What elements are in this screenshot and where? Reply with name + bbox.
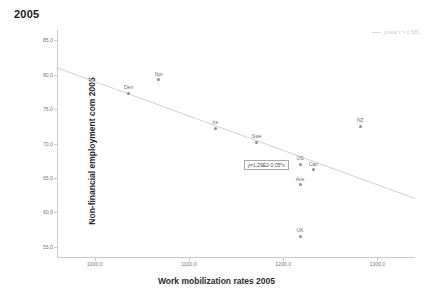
y-tick-label: 85,0 (43, 37, 53, 43)
x-tick-label: 1300,0 (369, 261, 385, 267)
data-point[interactable] (255, 141, 258, 144)
data-point[interactable] (299, 235, 302, 238)
y-tick-label: 55,0 (43, 244, 53, 250)
regression-line (57, 30, 415, 257)
y-tick-label: 65,0 (43, 175, 53, 181)
data-point[interactable] (214, 127, 217, 130)
x-tick-mark (95, 258, 96, 261)
data-point-label: Den (124, 84, 133, 90)
x-tick-mark (283, 258, 284, 261)
x-tick-mark (377, 258, 378, 261)
page-title: 2005 (14, 8, 39, 20)
data-point-label: Swe (252, 133, 262, 139)
x-axis-line (57, 257, 415, 258)
data-point-label: Ire (212, 119, 218, 125)
data-point[interactable] (312, 168, 315, 171)
data-point-label: NZ (357, 117, 364, 123)
data-point-label: Nor (155, 71, 163, 77)
regression-equation-label: y=1,29E2-0,05*x (244, 160, 289, 170)
data-point-label: Aus (296, 176, 305, 182)
data-point[interactable] (299, 183, 302, 186)
data-point-label: UK (297, 227, 304, 233)
y-tick-label: 80,0 (43, 72, 53, 78)
data-point[interactable] (359, 125, 362, 128)
y-tick-label: 75,0 (43, 106, 53, 112)
data-point[interactable] (299, 163, 302, 166)
y-tick-label: 70,0 (43, 141, 53, 147)
x-axis-title: Work mobilization rates 2005 (0, 276, 433, 286)
x-tick-label: 1000,0 (87, 261, 103, 267)
x-tick-mark (189, 258, 190, 261)
data-point-label: US (297, 155, 304, 161)
scatter-chart-figure: 2005 Non-financial employment com 2005 W… (0, 0, 433, 301)
data-point[interactable] (127, 92, 130, 95)
plot-area: 55,060,065,070,075,080,085,0 1000,01100,… (57, 30, 415, 257)
y-tick-label: 60,0 (43, 209, 53, 215)
x-tick-label: 1200,0 (275, 261, 291, 267)
data-point-label: Can (309, 161, 318, 167)
x-tick-label: 1100,0 (181, 261, 196, 267)
